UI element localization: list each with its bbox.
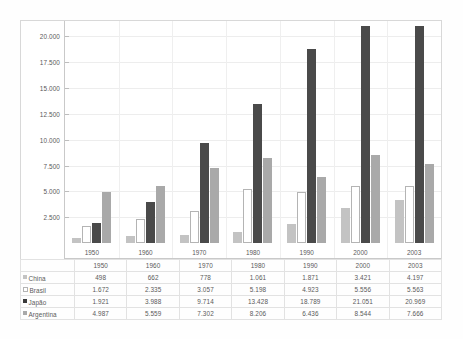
- y-axis-tick-mark: [65, 140, 69, 141]
- table-column-header-1990: 1990: [284, 260, 336, 272]
- table-cell: 4.923: [284, 284, 336, 296]
- y-axis-tick-label: 7.500: [44, 162, 61, 169]
- y-axis-tick-mark: [65, 36, 69, 37]
- chart-plot-frame: 2.5005.0007.50010.00012.50015.00017.5002…: [20, 20, 442, 260]
- bar-china-1970[interactable]: [180, 235, 189, 243]
- series-name-label: China: [29, 274, 46, 281]
- bar-japao-1990[interactable]: [307, 49, 316, 243]
- table-column-header-1960: 1960: [127, 260, 179, 272]
- table-column-header-1980: 1980: [232, 260, 284, 272]
- table-row-label-japão: Japão: [21, 296, 75, 308]
- table-cell: 18.789: [284, 296, 336, 308]
- table-cell: 1.061: [232, 272, 284, 284]
- table-cell: 20.969: [389, 296, 441, 308]
- bar-japao-1970[interactable]: [200, 143, 209, 243]
- table-cell: 2.335: [127, 284, 179, 296]
- data-table: 1950196019701980199020002003 China498662…: [20, 259, 442, 320]
- table-column-header-2000: 2000: [337, 260, 389, 272]
- table-column-header-1970: 1970: [179, 260, 231, 272]
- bar-argentina-1960[interactable]: [156, 186, 165, 243]
- bar-brasil-1990[interactable]: [297, 192, 306, 243]
- table-row: Argentina4.9875.5597.3028.2066.4368.5447…: [21, 308, 442, 320]
- table-cell: 9.714: [179, 296, 231, 308]
- table-cell: 778: [179, 272, 231, 284]
- bar-group-2003: [387, 21, 441, 259]
- bar-china-1950[interactable]: [72, 238, 81, 243]
- y-axis-tick-mark: [65, 166, 69, 167]
- table-cell: 5.559: [127, 308, 179, 320]
- x-axis-tick-label: 1990: [280, 249, 334, 256]
- bar-group-1980: [226, 21, 280, 259]
- bar-argentina-2000[interactable]: [371, 155, 380, 243]
- bar-brasil-2000[interactable]: [351, 186, 360, 243]
- bar-china-1980[interactable]: [233, 232, 242, 243]
- x-axis-tick-label: 1960: [119, 249, 173, 256]
- bar-japao-1960[interactable]: [146, 202, 155, 243]
- bar-argentina-2003[interactable]: [425, 164, 434, 243]
- bar-japao-1950[interactable]: [92, 223, 101, 243]
- table-cell: 8.544: [337, 308, 389, 320]
- series-name-label: Argentina: [29, 310, 57, 317]
- table-header-row: 1950196019701980199020002003: [21, 260, 442, 272]
- table-cell: 7.302: [179, 308, 231, 320]
- x-axis-tick-label: 2000: [334, 249, 388, 256]
- y-axis-tick-label: 17.500: [40, 59, 60, 66]
- bar-argentina-1990[interactable]: [317, 177, 326, 243]
- table-cell: 662: [127, 272, 179, 284]
- table-row-label-brasil: Brasil: [21, 284, 75, 296]
- table-cell: 3.421: [337, 272, 389, 284]
- argentina-swatch-icon: [23, 311, 27, 315]
- y-axis-tick-mark: [65, 88, 69, 89]
- y-axis-tick-label: 2.500: [44, 214, 61, 221]
- x-axis-tick-label: 2003: [387, 249, 441, 256]
- table-cell: 3.057: [179, 284, 231, 296]
- y-axis-tick-label: 15.000: [40, 85, 60, 92]
- table-cell: 13.428: [232, 296, 284, 308]
- table-row: Japão1.9213.9889.71413.42818.78921.05120…: [21, 296, 442, 308]
- table-cell: 5.556: [337, 284, 389, 296]
- bar-china-2003[interactable]: [395, 200, 404, 243]
- y-axis-tick-mark: [65, 217, 69, 218]
- table-row: Brasil1.6722.3353.0575.1984.9235.5565.56…: [21, 284, 442, 296]
- bar-brasil-1970[interactable]: [190, 211, 199, 243]
- bar-brasil-1960[interactable]: [136, 219, 145, 243]
- bar-china-2000[interactable]: [341, 208, 350, 243]
- table-body: China4986627781.0611.8713.4214.197Brasil…: [21, 272, 442, 320]
- table-cell: 4.987: [75, 308, 127, 320]
- table-cell: 21.051: [337, 296, 389, 308]
- y-axis-tick-label: 12.500: [40, 110, 60, 117]
- table-row-label-china: China: [21, 272, 75, 284]
- table-cell: 4.197: [389, 272, 441, 284]
- table-cell: 6.436: [284, 308, 336, 320]
- bar-argentina-1950[interactable]: [102, 192, 111, 243]
- table-cell: 7.666: [389, 308, 441, 320]
- bar-china-1960[interactable]: [126, 236, 135, 243]
- y-axis: 2.5005.0007.50010.00012.50015.00017.5002…: [21, 21, 65, 259]
- bar-group-1970: [172, 21, 226, 259]
- data-table-wrapper: 1950196019701980199020002003 China498662…: [20, 259, 442, 320]
- bar-japao-2003[interactable]: [415, 26, 424, 243]
- brasil-swatch-icon: [23, 287, 28, 292]
- bar-brasil-1950[interactable]: [82, 226, 91, 243]
- y-axis-tick-label: 20.000: [40, 33, 60, 40]
- y-axis-tick-mark: [65, 62, 69, 63]
- bar-brasil-2003[interactable]: [405, 186, 414, 243]
- table-column-header-1950: 1950: [75, 260, 127, 272]
- x-axis-tick-label: 1980: [226, 249, 280, 256]
- x-axis-tick-label: 1970: [172, 249, 226, 256]
- table-cell: 8.206: [232, 308, 284, 320]
- bar-brasil-1980[interactable]: [243, 189, 252, 243]
- bar-japao-1980[interactable]: [253, 104, 262, 243]
- table-cell: 5.198: [232, 284, 284, 296]
- bar-group-1990: [280, 21, 334, 259]
- series-name-label: Japão: [29, 298, 47, 305]
- y-axis-tick-mark: [65, 191, 69, 192]
- bar-china-1990[interactable]: [287, 224, 296, 243]
- table-cell: 1.871: [284, 272, 336, 284]
- bar-argentina-1970[interactable]: [210, 168, 219, 243]
- bar-japao-2000[interactable]: [361, 26, 370, 243]
- table-cell: 3.988: [127, 296, 179, 308]
- table-cell: 498: [75, 272, 127, 284]
- y-axis-tick-label: 10.000: [40, 136, 60, 143]
- bar-argentina-1980[interactable]: [263, 158, 272, 243]
